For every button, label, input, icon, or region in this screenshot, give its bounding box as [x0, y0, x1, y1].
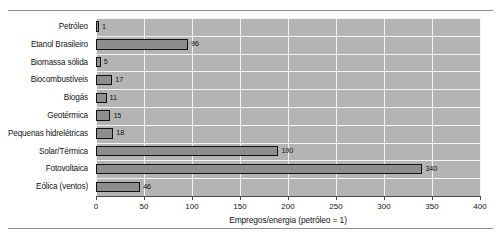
category-label: Geotérmica — [0, 111, 88, 120]
bar — [96, 146, 278, 156]
bar-chart: PetróleoEtanol BrasileiroBiomassa sólida… — [0, 14, 501, 226]
category-axis-labels: PetróleoEtanol BrasileiroBiomassa sólida… — [0, 18, 92, 196]
bar — [96, 128, 113, 138]
category-label: Fotovoltaica — [0, 164, 88, 173]
bar — [96, 110, 110, 120]
bar-value-label: 340 — [425, 164, 437, 174]
bar-row: 5 — [96, 54, 480, 72]
bar — [96, 164, 422, 174]
x-axis-tick-label: 250 — [316, 202, 356, 211]
bar-row: 340 — [96, 160, 480, 178]
category-label: Etanol Brasileiro — [0, 40, 88, 49]
bar-row: 46 — [96, 178, 480, 196]
x-axis-tick — [288, 196, 289, 200]
x-axis-tick — [240, 196, 241, 200]
bar-row: 15 — [96, 107, 480, 125]
bar — [96, 21, 99, 31]
x-axis-tick-label: 50 — [124, 202, 164, 211]
category-label: Pequenas hidrelétricas — [0, 129, 88, 138]
bar-value-label: 96 — [191, 39, 199, 49]
category-label: Biocombustíveis — [0, 75, 88, 84]
bar-row: 96 — [96, 36, 480, 54]
x-axis-tick — [192, 196, 193, 200]
category-label: Petróleo — [0, 22, 88, 31]
bar-value-label: 17 — [115, 75, 123, 85]
category-label: Biomassa sólida — [0, 58, 88, 67]
x-axis-tick-label: 400 — [460, 202, 500, 211]
x-axis-tick-label: 100 — [172, 202, 212, 211]
bar — [96, 57, 101, 67]
bar-row: 11 — [96, 89, 480, 107]
category-label: Solar/Térmica — [0, 147, 88, 156]
figure-top-rule — [8, 10, 493, 11]
x-axis-tick — [96, 196, 97, 200]
x-axis-tick — [480, 196, 481, 200]
bar — [96, 182, 140, 192]
figure-bottom-rule — [8, 228, 493, 229]
gridline-vertical — [480, 18, 481, 196]
bar-value-label: 15 — [113, 111, 121, 121]
x-axis-tick — [144, 196, 145, 200]
bar-row: 17 — [96, 71, 480, 89]
bar — [96, 93, 107, 103]
x-axis-tick — [432, 196, 433, 200]
x-axis-tick — [384, 196, 385, 200]
bar-value-label: 5 — [104, 57, 108, 67]
category-label: Eólica (ventos) — [0, 182, 88, 191]
x-axis-tick-label: 0 — [76, 202, 116, 211]
category-label: Biogás — [0, 93, 88, 102]
x-axis-title: Empregos/energia (petróleo = 1) — [96, 215, 480, 225]
bar-row: 18 — [96, 125, 480, 143]
bar — [96, 39, 188, 49]
bar-value-label: 1 — [102, 22, 106, 32]
x-axis-tick — [336, 196, 337, 200]
bar-row: 190 — [96, 143, 480, 161]
bar-value-label: 46 — [143, 182, 151, 192]
x-axis-tick-label: 150 — [220, 202, 260, 211]
x-axis-tick-label: 350 — [412, 202, 452, 211]
bar-value-label: 11 — [110, 93, 117, 103]
plot-area: 19651711151819034046 — [96, 18, 480, 196]
x-axis-tick-label: 300 — [364, 202, 404, 211]
bar-value-label: 18 — [116, 128, 124, 138]
bar-row: 1 — [96, 18, 480, 36]
x-axis-tick-label: 200 — [268, 202, 308, 211]
bar-value-label: 190 — [281, 146, 293, 156]
bar — [96, 75, 112, 85]
